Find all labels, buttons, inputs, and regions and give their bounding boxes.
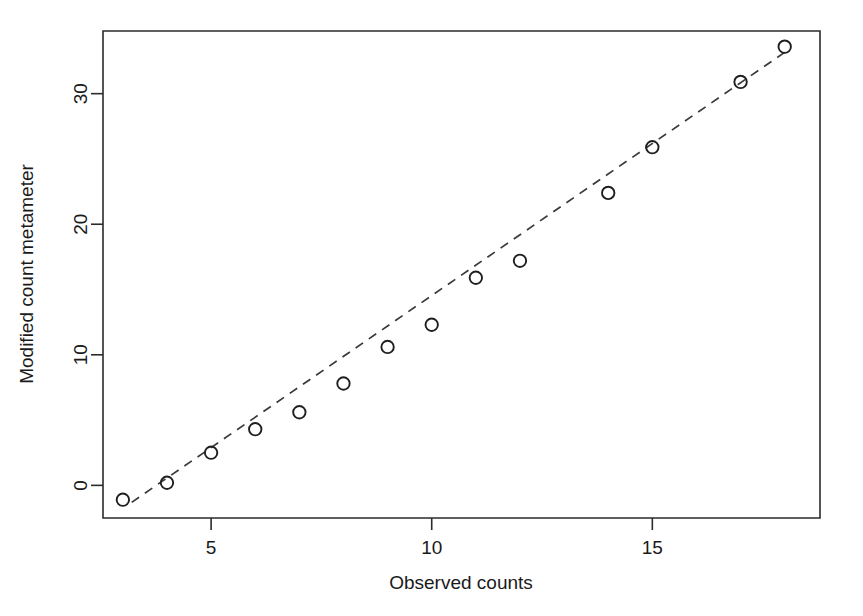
y-tick-label: 20 [71,214,92,235]
x-tick-label: 10 [421,537,442,558]
y-axis-title: Modified count metameter [16,164,37,384]
y-tick-label: 10 [71,344,92,365]
y-tick-label: 30 [71,83,92,104]
scatter-plot-figure: 51015 0102030 Observed counts Modified c… [0,0,863,616]
y-tick-label: 0 [71,480,92,491]
x-tick-label: 15 [642,537,663,558]
x-axis-title: Observed counts [389,572,533,593]
x-tick-label: 5 [206,537,217,558]
plot-canvas: 51015 0102030 Observed counts Modified c… [0,0,863,616]
